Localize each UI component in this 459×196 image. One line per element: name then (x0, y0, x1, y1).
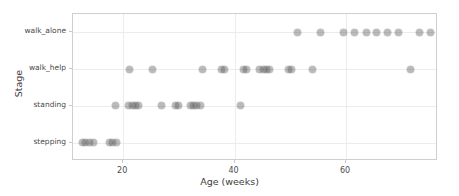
data-point (395, 29, 402, 36)
data-point (294, 29, 301, 36)
data-point (309, 66, 316, 73)
data-point (427, 29, 434, 36)
data-point (243, 66, 250, 73)
data-point (407, 66, 414, 73)
gridline-vertical (346, 14, 347, 159)
x-tick-label-20: 20 (117, 166, 127, 175)
y-tick-label-standing: standing (33, 100, 66, 109)
data-point (197, 102, 204, 109)
data-point (112, 102, 119, 109)
data-point (149, 66, 156, 73)
y-tick-label-stepping: stepping (33, 137, 66, 146)
x-axis-title: Age (weeks) (0, 176, 459, 187)
data-point (363, 29, 370, 36)
y-tick-label-walk-help: walk_help (29, 63, 66, 72)
data-point (126, 66, 133, 73)
data-point (221, 66, 228, 73)
x-tick-mark (122, 160, 123, 163)
data-point (113, 139, 120, 146)
data-point (237, 102, 244, 109)
data-point (266, 66, 273, 73)
data-point (373, 29, 380, 36)
data-point (317, 29, 324, 36)
plot-area (72, 13, 437, 160)
data-point (175, 102, 182, 109)
scatter-plot-figure: Stage walk_alonewalk_helpstandingsteppin… (0, 0, 459, 196)
data-point (199, 66, 206, 73)
y-tick-label-walk-alone: walk_alone (24, 26, 66, 35)
x-tick-mark (345, 160, 346, 163)
x-tick-label-40: 40 (229, 166, 239, 175)
gridline-horizontal (73, 32, 436, 33)
data-point (90, 139, 97, 146)
data-point (384, 29, 391, 36)
x-tick-mark (234, 160, 235, 163)
y-axis-title: Stage (13, 39, 24, 129)
data-point (416, 29, 423, 36)
gridline-vertical (123, 14, 124, 159)
gridline-horizontal (73, 143, 436, 144)
gridline-vertical (235, 14, 236, 159)
x-tick-label-60: 60 (340, 166, 350, 175)
data-point (351, 29, 358, 36)
data-point (288, 66, 295, 73)
data-point (135, 102, 142, 109)
data-point (158, 102, 165, 109)
